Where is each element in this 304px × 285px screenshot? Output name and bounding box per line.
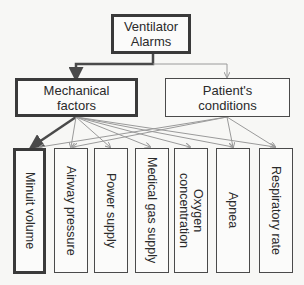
node-label-line1: Ventilator <box>124 19 178 34</box>
node-respiratory-rate: Respiratory rate <box>259 148 293 273</box>
node-label: Airway pressure <box>64 166 78 256</box>
node-airway-pressure: Airway pressure <box>54 148 88 273</box>
edge-patient-apnea <box>227 117 233 147</box>
node-power-supply: Power supply <box>94 148 128 273</box>
edge-mech-airway <box>71 117 76 147</box>
edge-mech-minuit <box>33 117 76 146</box>
node-oxygen-concentration: Oxygen concentration <box>174 148 208 273</box>
node-ventilator-alarms: Ventilator Alarms <box>111 14 191 54</box>
edge-mech-resp <box>76 117 275 147</box>
node-label-line2: factors <box>57 98 96 113</box>
node-label: Oxygen concentration <box>177 173 205 248</box>
node-label-line1: Patient's <box>203 83 252 98</box>
node-minuit-volume: Minuit volume <box>13 148 46 274</box>
edge-patient-resp <box>227 117 275 147</box>
edge-mech-apnea <box>76 117 233 147</box>
edge-root-patient <box>153 64 227 77</box>
node-apnea: Apnea <box>216 148 250 273</box>
node-label-line2: conditions <box>198 98 257 113</box>
node-mechanical-factors: Mechanical factors <box>15 78 138 117</box>
node-label: Respiratory rate <box>269 166 283 255</box>
node-label: Minuit volume <box>23 172 37 249</box>
edge-root-mechanical <box>76 54 153 77</box>
node-patients-conditions: Patient's conditions <box>165 78 290 117</box>
node-label-line1: Oxygen <box>191 189 205 232</box>
node-label: Power supply <box>104 173 118 248</box>
node-label: Medical gas supply <box>145 157 159 263</box>
node-label-line2: concentration <box>177 173 191 248</box>
node-label-line1: Mechanical <box>44 83 110 98</box>
node-label-line2: Alarms <box>131 34 171 49</box>
node-label: Apnea <box>226 192 240 228</box>
node-medical-gas-supply: Medical gas supply <box>135 148 169 273</box>
edge-mech-gas <box>76 117 150 147</box>
edge-patient-airway <box>73 117 227 147</box>
